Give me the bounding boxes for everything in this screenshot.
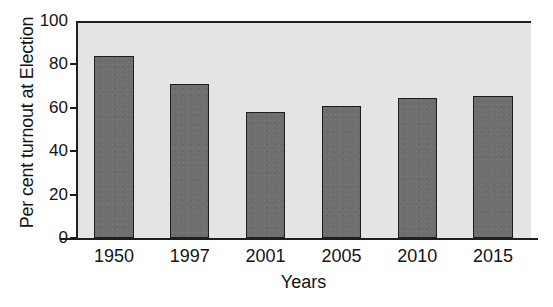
bar — [322, 106, 361, 238]
x-tick-label: 1997 — [152, 245, 228, 267]
y-axis-tick-labels: 020406080100 — [32, 21, 68, 238]
x-tick-label: 2001 — [228, 245, 304, 267]
bar — [94, 56, 133, 238]
y-tick-label: 80 — [32, 55, 68, 72]
y-tick-mark — [70, 63, 77, 65]
y-tick-label: 40 — [32, 142, 68, 159]
x-tick-label: 2015 — [455, 245, 531, 267]
y-tick-mark — [70, 194, 77, 196]
x-axis-line — [60, 238, 538, 240]
x-tick-label: 2005 — [304, 245, 380, 267]
bar — [473, 96, 512, 238]
bar-chart: Per cent turnout at Election 02040608010… — [0, 0, 553, 307]
bar — [246, 112, 285, 238]
y-tick-mark — [70, 237, 77, 239]
y-tick-mark — [70, 107, 77, 109]
x-tick-label: 1950 — [76, 245, 152, 267]
x-axis-title: Years — [76, 272, 531, 293]
bar — [170, 84, 209, 238]
y-tick-label: 100 — [32, 12, 68, 29]
x-axis-tick-labels: 195019972001200520102015 — [76, 245, 531, 269]
y-tick-label: 60 — [32, 99, 68, 116]
bars-group — [76, 21, 531, 238]
x-tick-label: 2010 — [379, 245, 455, 267]
y-tick-label: 20 — [32, 186, 68, 203]
bar — [398, 98, 437, 238]
y-tick-mark — [70, 150, 77, 152]
